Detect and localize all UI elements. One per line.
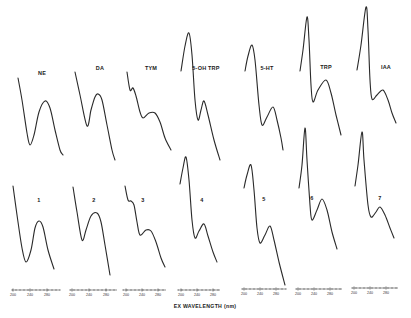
panel-label-7: 7 [378,195,381,201]
panel-label-1: 1 [37,197,40,203]
spectrum-curve-1 [13,186,54,269]
x-tick-label: 240 [27,293,33,297]
panel-label-4: 4 [200,197,203,203]
x-tick-label: 200 [10,293,16,297]
x-tick-label: 280 [273,292,279,296]
spectrum-curve-ne [18,78,63,155]
x-tick-label: 200 [241,292,247,296]
x-tick-label: 200 [123,293,129,297]
panel-label-5-oh-trp: 5-OH TRP [192,65,219,71]
panel-label-ne: NE [38,70,46,76]
x-tick-label: 200 [69,293,75,297]
excitation-spectra-figure: 2002402802002402802002402802002402802002… [0,0,411,318]
x-tick-label: 280 [383,291,389,295]
x-tick-label: 280 [103,293,109,297]
spectrum-curve-5 [244,165,285,285]
panel-label-6: 6 [310,195,313,201]
panel-label-trp: TRP [320,64,332,70]
x-tick-label: 240 [311,292,317,296]
panel-label-5-ht: 5-HT [260,65,273,71]
spectrum-curve-6 [299,128,337,249]
spectrum-curve-trp [300,17,341,135]
spectrum-curve-5-ht [245,45,283,150]
panel-label-iaa: IAA [381,64,391,70]
panel-label-3: 3 [141,197,144,203]
x-tick-label: 240 [257,292,263,296]
x-tick-label: 280 [327,292,333,296]
x-tick-label: 240 [86,293,92,297]
x-tick-label: 200 [351,291,357,295]
spectra-plot-area [0,0,411,318]
panel-label-5: 5 [262,196,265,202]
spectrum-curve-da [75,72,115,160]
x-tick-label: 280 [210,293,216,297]
panel-label-2: 2 [92,197,95,203]
spectrum-curve-3 [125,186,165,267]
x-tick-label: 240 [139,293,145,297]
spectrum-curve-4 [180,157,217,262]
panel-label-tym: TYM [145,65,157,71]
x-tick-label: 200 [295,292,301,296]
x-axis-title: EX WAVELENGTH (nm) [174,303,237,309]
x-tick-label: 240 [194,293,200,297]
x-tick-label: 280 [155,293,161,297]
spectrum-curve-7 [355,132,394,238]
x-tick-label: 240 [367,291,373,295]
spectrum-curve-5-oh-trp [181,33,220,160]
x-tick-label: 200 [178,293,184,297]
spectrum-curve-tym [127,72,171,150]
x-tick-label: 280 [44,293,50,297]
panel-label-da: DA [96,65,104,71]
